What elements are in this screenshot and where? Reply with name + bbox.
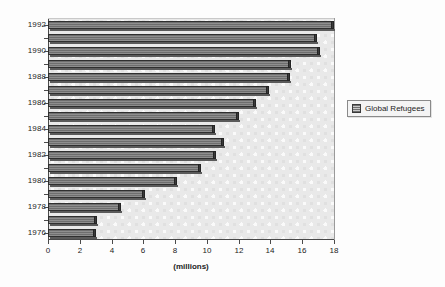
y-tick-mark-1977 [44, 220, 48, 221]
x-tick-label-4: 4 [102, 246, 122, 255]
bar-shadow-1983 [50, 146, 225, 148]
bar-body-1985 [48, 112, 239, 120]
y-tick-mark-1976 [44, 233, 48, 234]
bar-body-1990 [48, 47, 320, 55]
bar-cap-1980 [174, 177, 177, 185]
y-tick-mark-1978 [44, 207, 48, 208]
legend-label-global-refugees: Global Refugees [365, 104, 425, 113]
bar-shadow-1979 [50, 198, 146, 200]
bar-cap-1987 [266, 86, 269, 94]
bar-shadow-1978 [50, 211, 122, 213]
bar-1980 [48, 177, 177, 186]
bar-1977 [48, 216, 97, 225]
bar-cap-1991 [314, 34, 317, 42]
y-tick-mark-1980 [44, 181, 48, 182]
x-tick-label-12: 12 [229, 246, 249, 255]
bar-body-1978 [48, 203, 121, 211]
x-tick-mark-0 [48, 240, 49, 244]
bar-1982 [48, 151, 216, 160]
bar-shadow-1982 [50, 159, 217, 161]
bar-cap-1984 [212, 125, 215, 133]
bar-body-1984 [48, 125, 215, 133]
bar-1986 [48, 99, 256, 108]
y-tick-mark-1987 [44, 90, 48, 91]
bar-body-1991 [48, 34, 317, 42]
chart-figure: 199219901988198619841982198019781976 024… [0, 0, 445, 287]
y-tick-mark-1989 [44, 64, 48, 65]
bar-shadow-1981 [50, 172, 202, 174]
y-axis: 199219901988198619841982198019781976 [0, 0, 46, 287]
bar-cap-1983 [221, 138, 224, 146]
bar-shadow-1980 [50, 185, 178, 187]
x-tick-label-14: 14 [260, 246, 280, 255]
bar-body-1976 [48, 229, 96, 237]
bar-body-1987 [48, 86, 269, 94]
y-tick-mark-1991 [44, 38, 48, 39]
y-tick-mark-1988 [44, 77, 48, 78]
y-tick-label-1986: 1986 [4, 98, 46, 107]
bar-1988 [48, 73, 290, 82]
bar-shadow-1984 [50, 133, 216, 135]
x-tick-mark-14 [270, 240, 271, 244]
legend[interactable]: Global Refugees [347, 100, 431, 117]
bar-shadow-1985 [50, 120, 240, 122]
bar-body-1982 [48, 151, 216, 159]
legend-swatch-global-refugees [352, 104, 361, 113]
bar-cap-1985 [236, 112, 239, 120]
y-tick-label-1992: 1992 [4, 20, 46, 29]
bar-1981 [48, 164, 201, 173]
x-tick-label-2: 2 [70, 246, 90, 255]
bar-shadow-1992 [50, 29, 335, 31]
x-tick-label-16: 16 [292, 246, 312, 255]
plot-frame-top-border [48, 18, 335, 19]
x-tick-label-8: 8 [165, 246, 185, 255]
y-tick-label-1984: 1984 [4, 124, 46, 133]
x-tick-mark-12 [239, 240, 240, 244]
bar-body-1981 [48, 164, 201, 172]
y-tick-label-1976: 1976 [4, 228, 46, 237]
y-tick-mark-1984 [44, 129, 48, 130]
bar-1983 [48, 138, 224, 147]
bar-1989 [48, 60, 291, 69]
bar-1991 [48, 34, 317, 43]
bar-1976 [48, 229, 96, 238]
y-tick-label-1988: 1988 [4, 72, 46, 81]
bar-shadow-1977 [50, 224, 98, 226]
bar-cap-1979 [142, 190, 145, 198]
bar-shadow-1976 [50, 237, 97, 239]
bar-body-1979 [48, 190, 145, 198]
bar-cap-1992 [331, 21, 334, 29]
bar-1984 [48, 125, 215, 134]
x-tick-mark-6 [143, 240, 144, 244]
bar-cap-1981 [198, 164, 201, 172]
plot-frame-right-border [334, 18, 335, 240]
bar-body-1992 [48, 21, 334, 29]
bar-cap-1988 [287, 73, 290, 81]
y-tick-mark-1983 [44, 142, 48, 143]
y-tick-mark-1986 [44, 103, 48, 104]
bar-shadow-1988 [50, 81, 291, 83]
y-tick-mark-1992 [44, 25, 48, 26]
x-tick-mark-10 [207, 240, 208, 244]
bar-1978 [48, 203, 121, 212]
y-tick-mark-1981 [44, 168, 48, 169]
x-tick-label-10: 10 [197, 246, 217, 255]
bar-body-1980 [48, 177, 177, 185]
bar-shadow-1989 [50, 68, 292, 70]
bar-body-1986 [48, 99, 256, 107]
bar-1990 [48, 47, 320, 56]
bar-1992 [48, 21, 334, 30]
x-tick-mark-8 [175, 240, 176, 244]
y-tick-mark-1982 [44, 155, 48, 156]
bar-shadow-1991 [50, 42, 318, 44]
y-tick-mark-1985 [44, 116, 48, 117]
x-tick-label-18: 18 [324, 246, 344, 255]
y-tick-label-1978: 1978 [4, 202, 46, 211]
y-tick-label-1980: 1980 [4, 176, 46, 185]
x-tick-mark-4 [112, 240, 113, 244]
y-tick-mark-1990 [44, 51, 48, 52]
bar-body-1989 [48, 60, 291, 68]
x-tick-mark-18 [334, 240, 335, 244]
bar-body-1977 [48, 216, 97, 224]
bar-cap-1986 [253, 99, 256, 107]
